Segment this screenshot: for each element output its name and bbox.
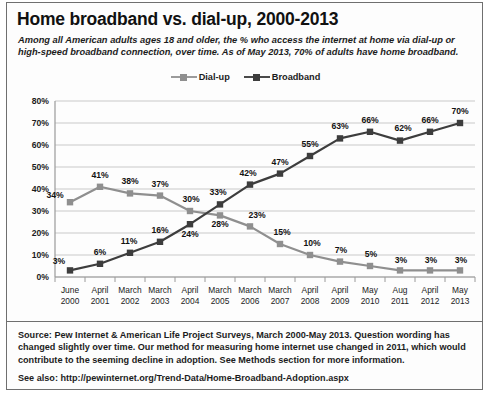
x-axis-tick-label: 2005: [211, 296, 230, 306]
x-axis-tick-label: 2004: [181, 296, 200, 306]
footer-divider: [7, 321, 483, 322]
x-axis-tick-label: March: [268, 285, 292, 295]
data-point-label: 55%: [301, 139, 319, 149]
data-point-marker[interactable]: [157, 239, 163, 245]
data-point-label: 16%: [151, 225, 169, 235]
x-axis-tick-label: 2007: [271, 296, 290, 306]
data-point-label: 15%: [273, 227, 291, 237]
data-point-marker[interactable]: [247, 223, 253, 229]
y-axis-tick-label: 0%: [37, 272, 50, 282]
x-axis-tick-label: June: [61, 285, 80, 295]
data-point-marker[interactable]: [187, 221, 193, 227]
y-axis-tick-label: 20%: [32, 228, 50, 238]
x-axis-tick-label: 2013: [451, 296, 470, 306]
data-point-label: 41%: [91, 170, 109, 180]
data-point-marker[interactable]: [337, 135, 343, 141]
data-point-marker[interactable]: [277, 170, 283, 176]
x-axis-tick-label: 2002: [121, 296, 140, 306]
series-dial-up: 34%41%38%37%30%28%23%15%10%7%5%3%3%3%: [46, 170, 467, 274]
x-axis-tick-label: March: [208, 285, 232, 295]
y-axis-tick-label: 30%: [32, 206, 50, 216]
x-axis-tick-label: April: [92, 285, 109, 295]
data-point-label: 70%: [451, 106, 469, 116]
data-point-marker[interactable]: [127, 250, 133, 256]
data-point-marker[interactable]: [367, 129, 373, 135]
data-point-marker[interactable]: [277, 241, 283, 247]
data-point-marker[interactable]: [367, 263, 373, 269]
x-axis-tick-label: 2000: [61, 296, 80, 306]
legend-item-dial-up[interactable]: Dial-up: [171, 72, 230, 82]
data-point-marker[interactable]: [97, 184, 103, 190]
x-axis-tick-label: 2006: [241, 296, 260, 306]
data-point-marker[interactable]: [217, 201, 223, 207]
line-chart: 0%10%20%30%40%50%60%70%80%June2000April2…: [7, 87, 483, 309]
data-point-marker[interactable]: [247, 181, 253, 187]
data-point-label: 47%: [271, 157, 289, 167]
data-point-marker[interactable]: [307, 252, 313, 258]
y-axis-tick-label: 60%: [32, 140, 50, 150]
data-point-label: 5%: [365, 249, 378, 259]
data-point-marker[interactable]: [397, 137, 403, 143]
data-point-marker[interactable]: [67, 199, 73, 205]
page-title: Home broadband vs. dial-up, 2000-2013: [17, 9, 338, 30]
data-point-label: 10%: [303, 238, 321, 248]
x-axis-tick-label: 2001: [91, 296, 110, 306]
data-point-marker[interactable]: [157, 192, 163, 198]
data-point-marker[interactable]: [457, 120, 463, 126]
source-note: Source: Pew Internet & American Life Pro…: [18, 329, 470, 366]
x-axis-tick-label: May: [452, 285, 469, 295]
data-point-marker[interactable]: [427, 129, 433, 135]
data-point-label: 23%: [248, 210, 266, 220]
x-axis-tick-label: 2008: [301, 296, 320, 306]
data-point-label: 62%: [394, 123, 412, 133]
x-axis-tick-label: March: [148, 285, 172, 295]
data-point-marker[interactable]: [97, 261, 103, 267]
data-point-label: 33%: [209, 187, 227, 197]
data-point-label: 34%: [46, 190, 64, 200]
data-point-label: 6%: [94, 247, 107, 257]
infographic-card: Home broadband vs. dial-up, 2000-2013 Am…: [6, 2, 483, 390]
data-point-marker[interactable]: [217, 212, 223, 218]
data-point-marker[interactable]: [427, 267, 433, 273]
data-point-marker[interactable]: [337, 258, 343, 264]
data-point-label: 3%: [395, 255, 408, 265]
y-axis-tick-label: 70%: [32, 118, 50, 128]
data-point-label: 3%: [53, 256, 66, 266]
x-axis-tick-label: March: [238, 285, 262, 295]
x-axis-tick-label: 2009: [331, 296, 350, 306]
x-axis-tick-label: 2003: [151, 296, 170, 306]
data-point-label: 24%: [181, 229, 199, 239]
chart-canvas: 0%10%20%30%40%50%60%70%80%June2000April2…: [7, 87, 483, 309]
x-axis-tick-label: Aug: [393, 285, 408, 295]
data-point-marker[interactable]: [397, 267, 403, 273]
data-point-marker[interactable]: [187, 208, 193, 214]
data-point-label: 3%: [455, 255, 468, 265]
legend-item-broadband[interactable]: Broadband: [244, 72, 321, 82]
x-axis-tick-label: April: [422, 285, 439, 295]
subtitle-text: Among all American adults ages 18 and ol…: [18, 34, 473, 58]
data-point-label: 11%: [121, 236, 138, 246]
data-point-label: 42%: [239, 168, 257, 178]
y-axis-tick-label: 50%: [32, 162, 50, 172]
legend-label-dial-up: Dial-up: [199, 72, 230, 82]
y-axis-tick-label: 10%: [32, 250, 50, 260]
data-point-marker[interactable]: [127, 190, 133, 196]
x-axis-tick-label: April: [302, 285, 319, 295]
x-axis-tick-label: 2011: [391, 296, 409, 306]
data-point-label: 37%: [151, 179, 169, 189]
data-point-label: 38%: [121, 176, 139, 186]
data-point-marker[interactable]: [307, 153, 313, 159]
data-point-label: 30%: [182, 194, 200, 204]
data-point-label: 66%: [361, 115, 379, 125]
chart-legend: Dial-up Broadband: [7, 72, 483, 82]
data-point-label: 28%: [211, 219, 229, 229]
data-point-label: 7%: [335, 245, 348, 255]
x-axis-tick-label: March: [118, 285, 142, 295]
data-point-label: 63%: [331, 121, 349, 131]
legend-label-broadband: Broadband: [272, 72, 321, 82]
data-point-marker[interactable]: [457, 267, 463, 273]
legend-line-marker-icon: [244, 73, 270, 82]
data-point-marker[interactable]: [67, 267, 73, 273]
legend-line-marker-icon: [171, 73, 197, 82]
x-axis-tick-label: April: [332, 285, 349, 295]
